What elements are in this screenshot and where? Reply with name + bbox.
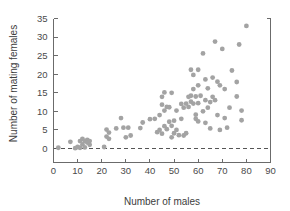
- data-point: [203, 98, 208, 103]
- data-point: [119, 116, 124, 121]
- x-tick-label-80: 80: [241, 165, 252, 176]
- data-point: [174, 128, 179, 133]
- data-point: [160, 102, 165, 107]
- data-point: [208, 100, 213, 105]
- data-point: [193, 112, 198, 117]
- data-point: [201, 51, 206, 56]
- data-point: [191, 73, 196, 78]
- data-point: [208, 126, 213, 131]
- x-tick-label-50: 50: [169, 165, 180, 176]
- data-point: [196, 119, 201, 124]
- data-point: [239, 108, 244, 113]
- data-point: [174, 108, 179, 113]
- data-point: [164, 127, 169, 132]
- chart-canvas: 051015202530350102030405060708090Number …: [0, 0, 290, 211]
- data-point: [210, 75, 215, 80]
- data-point: [102, 145, 107, 150]
- data-point: [138, 126, 143, 131]
- data-point: [196, 101, 201, 106]
- x-tick-label-60: 60: [193, 165, 204, 176]
- data-point: [87, 142, 92, 147]
- data-point: [217, 83, 222, 88]
- data-point: [205, 86, 210, 91]
- data-point: [169, 90, 174, 95]
- data-point: [123, 135, 128, 140]
- y-axis-title: Number of mating females: [8, 25, 19, 142]
- data-point: [227, 105, 232, 110]
- data-point: [213, 39, 218, 44]
- y-tick-label-10: 10: [37, 106, 48, 117]
- data-point: [172, 118, 177, 123]
- data-point: [167, 105, 172, 110]
- data-point: [205, 105, 210, 110]
- data-point: [217, 128, 222, 133]
- data-point: [126, 125, 131, 130]
- data-point: [191, 87, 196, 92]
- data-point: [234, 94, 239, 99]
- data-point: [152, 116, 157, 121]
- data-point: [140, 120, 145, 125]
- data-points-group: [56, 24, 249, 151]
- data-point: [114, 126, 119, 131]
- y-tick-label-30: 30: [37, 31, 48, 42]
- y-tick-label-0: 0: [42, 143, 47, 154]
- y-tick-label-20: 20: [37, 69, 48, 80]
- data-point: [215, 113, 220, 118]
- data-point: [234, 80, 239, 85]
- data-point: [230, 68, 235, 73]
- data-point: [169, 135, 174, 140]
- x-axis-title: Number of males: [124, 196, 200, 207]
- data-point: [189, 93, 194, 98]
- data-point: [148, 117, 153, 122]
- x-tick-label-90: 90: [265, 165, 276, 176]
- data-point: [107, 136, 112, 141]
- data-point: [121, 125, 126, 130]
- x-tick-label-10: 10: [72, 165, 83, 176]
- data-point: [239, 118, 244, 123]
- x-tick-label-70: 70: [217, 165, 228, 176]
- y-tick-label-25: 25: [37, 50, 48, 61]
- data-point: [222, 87, 227, 92]
- data-point: [184, 131, 189, 136]
- data-point: [107, 130, 112, 135]
- data-point: [196, 67, 201, 72]
- data-point: [160, 131, 165, 136]
- data-point: [157, 113, 162, 118]
- data-point: [237, 42, 242, 47]
- data-point: [222, 116, 227, 121]
- x-tick-label-20: 20: [96, 165, 107, 176]
- data-point: [191, 101, 196, 106]
- data-point: [181, 105, 186, 110]
- data-point: [160, 94, 165, 99]
- data-point: [198, 93, 203, 98]
- data-point: [176, 133, 181, 138]
- data-point: [169, 123, 174, 128]
- data-point: [189, 67, 194, 72]
- data-point: [162, 90, 167, 95]
- x-tick-label-40: 40: [145, 165, 156, 176]
- data-point: [68, 139, 73, 144]
- data-point: [213, 98, 218, 103]
- data-point: [203, 77, 208, 82]
- data-point: [167, 119, 172, 124]
- x-tick-label-30: 30: [121, 165, 132, 176]
- data-point: [203, 120, 208, 125]
- data-point: [193, 94, 198, 99]
- data-point: [179, 116, 184, 121]
- y-tick-label-15: 15: [37, 87, 48, 98]
- data-point: [244, 24, 249, 29]
- data-point: [82, 145, 87, 150]
- x-tick-label-0: 0: [51, 165, 56, 176]
- data-point: [196, 83, 201, 88]
- data-point: [186, 105, 191, 110]
- data-point: [56, 145, 61, 150]
- data-point: [225, 125, 230, 130]
- data-point: [220, 47, 225, 52]
- data-point: [201, 109, 206, 114]
- y-tick-label-5: 5: [42, 124, 47, 135]
- y-tick-label-35: 35: [37, 13, 48, 24]
- scatter-plot-figure: 051015202530350102030405060708090Number …: [0, 0, 290, 211]
- data-point: [128, 133, 133, 138]
